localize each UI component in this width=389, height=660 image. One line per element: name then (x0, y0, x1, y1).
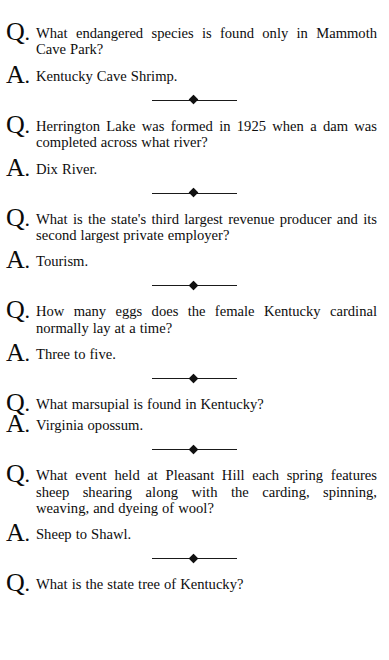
question-marker-dot: . (25, 298, 30, 323)
answer-row: A. Sheep to Shawl. (5, 523, 379, 543)
answer-marker-dot: . (25, 412, 30, 437)
divider-diamond (189, 554, 199, 564)
question-marker-letter: Q (6, 568, 25, 597)
qa-entry: Q. Herrington Lake was formed in 1925 wh… (0, 115, 389, 178)
question-row: Q. What endangered species is found only… (5, 22, 379, 58)
answer-marker-letter: A (6, 60, 25, 89)
question-text: What endangered species is found only in… (36, 22, 379, 58)
question-marker-dot: . (25, 20, 30, 45)
qa-entry: Q. What marsupial is found in Kentucky? … (0, 393, 389, 434)
answer-marker-letter: A (6, 153, 25, 182)
qa-entry: Q. How many eggs does the female Kentuck… (0, 300, 389, 363)
question-row: Q. Herrington Lake was formed in 1925 wh… (5, 115, 379, 151)
answer-row: A. Three to five. (5, 343, 379, 363)
qa-entry: Q. What endangered species is found only… (0, 22, 389, 85)
diamond-rule-ornament-icon (0, 374, 389, 383)
question-row: Q. How many eggs does the female Kentuck… (5, 300, 379, 336)
question-marker-dot: . (25, 462, 30, 487)
diamond-rule-ornament-icon (0, 554, 389, 563)
question-row: Q. What is the state tree of Kentucky? (5, 573, 379, 593)
answer-marker-letter: A (6, 338, 25, 367)
question-marker: Q. (5, 464, 36, 484)
qa-entry: Q. What event held at Pleasant Hill each… (0, 464, 389, 543)
answer-row: A. Virginia opossum. (5, 414, 379, 434)
question-text: What is the state's third largest revenu… (36, 208, 379, 244)
question-row: Q. What is the state's third largest rev… (5, 208, 379, 244)
question-row: Q. What event held at Pleasant Hill each… (5, 464, 379, 516)
answer-marker-dot: . (25, 521, 30, 546)
answer-marker-letter: A (6, 245, 25, 274)
question-marker-letter: Q (6, 110, 25, 139)
question-row: Q. What marsupial is found in Kentucky? (5, 393, 379, 413)
answer-marker: A. (5, 65, 36, 85)
question-marker: Q. (5, 22, 36, 42)
divider-diamond (189, 188, 199, 198)
divider-diamond (189, 373, 199, 383)
answer-text: Dix River. (36, 158, 379, 177)
answer-text: Virginia opossum. (36, 414, 379, 433)
answer-marker-letter: A (6, 409, 25, 438)
answer-row: A. Tourism. (5, 250, 379, 270)
diamond-rule-ornament-icon (0, 445, 389, 454)
question-marker-dot: . (25, 571, 30, 596)
answer-row: A. Kentucky Cave Shrimp. (5, 65, 379, 85)
answer-marker-dot: . (25, 341, 30, 366)
qa-entry: Q. What is the state's third largest rev… (0, 208, 389, 271)
trivia-page: Q. What endangered species is found only… (0, 0, 389, 660)
divider-diamond (189, 444, 199, 454)
answer-text: Tourism. (36, 250, 379, 269)
diamond-rule-ornament-icon (0, 189, 389, 198)
answer-marker: A. (5, 250, 36, 270)
answer-marker: A. (5, 414, 36, 434)
question-marker: Q. (5, 573, 36, 593)
diamond-rule-ornament-icon (0, 281, 389, 290)
question-text: How many eggs does the female Kentucky c… (36, 300, 379, 336)
answer-text: Sheep to Shawl. (36, 523, 379, 542)
answer-marker-dot: . (25, 248, 30, 273)
answer-row: A. Dix River. (5, 158, 379, 178)
answer-marker: A. (5, 523, 36, 543)
answer-marker-letter: A (6, 518, 25, 547)
qa-entry-clipped: Q. What is the state tree of Kentucky? (0, 573, 389, 593)
answer-marker-dot: . (25, 156, 30, 181)
question-marker-letter: Q (6, 295, 25, 324)
question-marker-letter: Q (6, 17, 25, 46)
question-text: Herrington Lake was formed in 1925 when … (36, 115, 379, 151)
question-text: What event held at Pleasant Hill each sp… (36, 464, 379, 516)
answer-text: Kentucky Cave Shrimp. (36, 65, 379, 84)
divider-diamond (189, 280, 199, 290)
question-marker-letter: Q (6, 459, 25, 488)
answer-text: Three to five. (36, 343, 379, 362)
answer-marker-dot: . (25, 63, 30, 88)
question-text: What is the state tree of Kentucky? (36, 573, 379, 592)
question-marker-letter: Q (6, 203, 25, 232)
question-text: What marsupial is found in Kentucky? (36, 393, 379, 412)
question-marker: Q. (5, 300, 36, 320)
question-marker: Q. (5, 115, 36, 135)
divider-diamond (189, 95, 199, 105)
diamond-rule-ornament-icon (0, 96, 389, 105)
question-marker-dot: . (25, 113, 30, 138)
answer-marker: A. (5, 343, 36, 363)
question-marker-dot: . (25, 206, 30, 231)
question-marker: Q. (5, 208, 36, 228)
answer-marker: A. (5, 158, 36, 178)
